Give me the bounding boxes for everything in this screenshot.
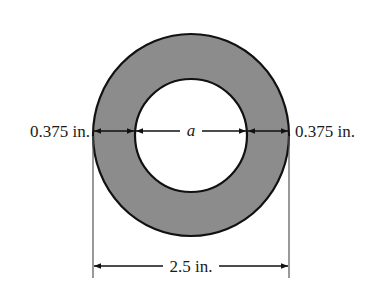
outer-diameter-label: 2.5 in.: [170, 257, 213, 276]
outer-diameter-dimension: 2.5 in.: [94, 257, 288, 276]
inner-diameter-label: a: [187, 121, 196, 140]
cross-section-diagram: 0.375 in. a 0.375 in. 2.5 in.: [0, 0, 375, 296]
right-wall-label: 0.375 in.: [295, 122, 355, 141]
left-wall-label: 0.375 in.: [30, 122, 90, 141]
